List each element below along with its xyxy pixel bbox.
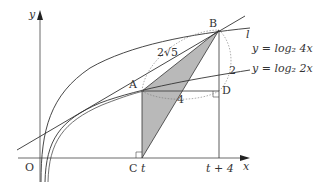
length-bd-label: 2	[229, 64, 236, 77]
curve-upper-label: y = log₂ 4x	[251, 42, 313, 55]
y-axis-label: y	[28, 8, 36, 21]
origin-label: O	[25, 161, 34, 174]
tick-t-plus-4-label: t + 4	[206, 162, 234, 175]
line-l-label: l	[246, 28, 250, 41]
point-a-label: A	[128, 78, 138, 91]
right-angle-d-icon	[213, 91, 219, 97]
length-ab-label: 2√5	[157, 46, 178, 59]
curve-lower-label: y = log₂ 2x	[251, 62, 313, 75]
point-c-label: C	[129, 162, 137, 175]
tick-t-label: t	[141, 162, 146, 175]
length-ad-label: 4	[177, 93, 184, 106]
right-angle-c-icon	[136, 152, 142, 158]
y-axis-arrow-icon	[37, 10, 43, 20]
x-axis-label: x	[243, 160, 250, 173]
arc-bd-dotted	[219, 30, 231, 91]
point-d-label: D	[222, 84, 231, 97]
log-graph-diagram: y x O A B C D t t + 4 l y = log₂ 4x y = …	[0, 0, 313, 189]
point-b-label: B	[209, 17, 217, 30]
